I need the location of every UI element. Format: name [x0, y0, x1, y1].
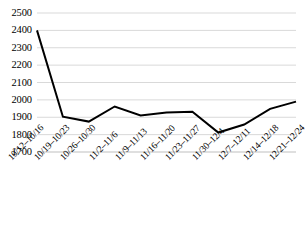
- line-chart: 2500 2400 2300 2200 2100 2000 1900 1800 …: [0, 0, 308, 227]
- x-axis-tick-labels: 10/12–10/16 10/19–10/23 10/26–10/30 11/2…: [0, 0, 308, 227]
